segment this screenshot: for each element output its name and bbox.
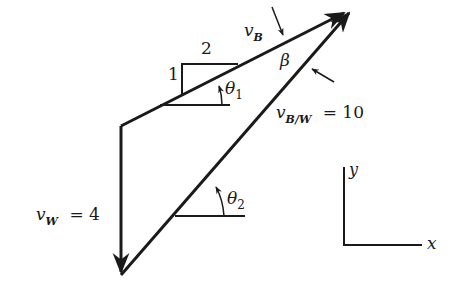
label-slope-run: 2 (201, 40, 212, 57)
theta1-arc-icon (219, 86, 222, 105)
beta-pointer-bottom-icon (312, 69, 334, 82)
theta2-arc-icon (216, 187, 224, 216)
vector-diagram: vB 2 1 θ1 β vB/W = 10 θ2 vW = 4 y x (0, 0, 457, 293)
beta-pointer-top-icon (272, 7, 283, 35)
label-vw: vW = 4 (36, 206, 100, 223)
label-slope-rise: 1 (168, 66, 179, 83)
label-vb: vB (244, 22, 263, 39)
label-axis-x: x (427, 235, 437, 252)
label-theta1: θ1 (225, 80, 243, 97)
label-beta: β (280, 52, 290, 69)
label-axis-y: y (349, 162, 358, 178)
vector-vbw (121, 13, 349, 275)
label-vbw: vB/W = 10 (276, 104, 364, 121)
diagram-lines (0, 0, 457, 293)
label-theta2: θ2 (227, 190, 245, 207)
